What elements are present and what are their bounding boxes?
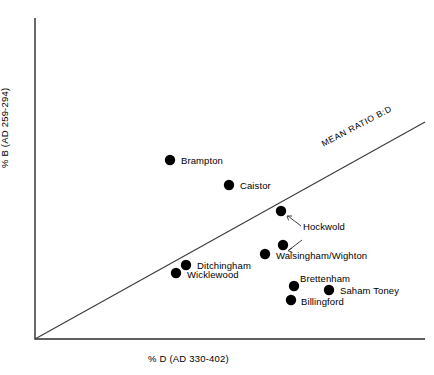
data-point: [286, 295, 296, 305]
data-point: [224, 180, 234, 190]
data-point: [289, 281, 299, 291]
hockwold-leader-lines: [287, 216, 302, 252]
data-point: [276, 206, 286, 216]
data-point: [260, 249, 270, 259]
data-point-label: Caistor: [240, 181, 271, 191]
data-point: [165, 155, 175, 165]
data-point-label: Hockwold: [303, 222, 345, 232]
mean-ratio-line: [35, 122, 425, 339]
leader-line-upper: [288, 216, 301, 226]
plot-area: [0, 0, 434, 375]
x-axis-label: % D (AD 330-402): [148, 353, 229, 364]
data-point: [324, 285, 334, 295]
data-point-label: Wicklewood: [187, 270, 239, 280]
data-point-label: Saham Toney: [340, 286, 399, 296]
y-axis-label: % B (AD 259-294): [0, 88, 10, 168]
data-point-label: Walsingham/Wighton: [276, 251, 367, 261]
data-point-label: Brampton: [181, 156, 223, 166]
data-point: [278, 240, 288, 250]
data-point-label: Billingford: [301, 297, 344, 307]
data-point: [171, 268, 181, 278]
scatter-chart: BramptonCaistorHockwoldWalsingham/Wighto…: [0, 0, 434, 375]
data-point-label: Brettenham: [300, 274, 350, 284]
